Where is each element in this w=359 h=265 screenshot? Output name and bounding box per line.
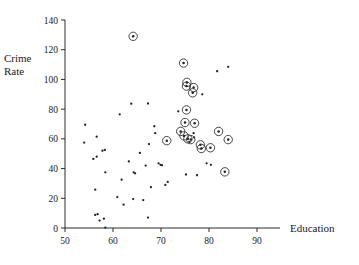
y-tick-label: 100 — [44, 75, 59, 85]
x-tick-label: 60 — [108, 236, 118, 246]
data-point — [134, 172, 136, 174]
data-point — [104, 171, 106, 173]
data-point-highlighted — [185, 109, 188, 112]
data-point — [148, 143, 150, 145]
data-point — [96, 135, 98, 137]
data-point — [104, 226, 106, 228]
data-point-highlighted — [227, 138, 230, 141]
data-point — [96, 156, 98, 158]
x-axis-title: Education — [290, 222, 335, 234]
data-point — [153, 125, 155, 127]
y-ticks-group: 020406080100120140 — [44, 16, 65, 234]
y-tick-label: 60 — [49, 134, 59, 144]
data-point — [154, 132, 156, 134]
data-point — [103, 217, 105, 219]
data-point — [164, 184, 166, 186]
data-point — [161, 164, 163, 166]
data-point — [92, 158, 94, 160]
y-tick-label: 0 — [53, 224, 58, 234]
data-point — [216, 70, 218, 72]
x-tick-label: 80 — [204, 236, 214, 246]
data-points-group — [83, 32, 232, 229]
data-point — [122, 204, 124, 206]
data-point — [142, 199, 144, 201]
data-point — [83, 141, 85, 143]
data-point — [128, 160, 130, 162]
data-point — [130, 103, 132, 105]
data-point — [147, 102, 149, 104]
data-point-highlighted — [166, 139, 169, 142]
data-point-highlighted — [184, 121, 187, 124]
data-point — [132, 198, 134, 200]
data-point — [167, 181, 169, 183]
data-point-highlighted — [185, 85, 188, 88]
data-point — [101, 150, 103, 152]
y-tick-label: 140 — [44, 16, 59, 26]
data-point-highlighted — [193, 122, 196, 125]
data-point — [201, 93, 203, 95]
data-point-highlighted — [200, 147, 203, 150]
data-point — [94, 189, 96, 191]
data-point — [84, 124, 86, 126]
x-tick-label: 70 — [156, 236, 166, 246]
x-ticks-group: 5060708090 — [60, 228, 262, 246]
data-point-highlighted — [132, 35, 135, 38]
x-tick-label: 90 — [252, 236, 262, 246]
data-point — [177, 110, 179, 112]
data-point — [96, 213, 98, 215]
data-point-highlighted — [209, 147, 212, 150]
data-point-highlighted — [217, 130, 220, 133]
data-point — [104, 149, 106, 151]
data-point-highlighted — [191, 92, 194, 95]
data-point-highlighted — [224, 171, 227, 174]
data-point — [196, 174, 198, 176]
data-point — [116, 196, 118, 198]
data-point — [139, 152, 141, 154]
data-point — [94, 214, 96, 216]
data-point — [192, 132, 194, 134]
data-point — [227, 66, 229, 68]
data-point — [205, 162, 207, 164]
scatter-plot-figure: Crime Rate 020406080100120140 5060708090… — [0, 0, 359, 265]
y-tick-label: 120 — [44, 45, 59, 55]
axes-group — [65, 20, 280, 228]
y-tick-label: 20 — [49, 194, 59, 204]
data-point — [157, 162, 159, 164]
data-point — [150, 186, 152, 188]
data-point — [119, 113, 121, 115]
data-point — [144, 164, 146, 166]
y-tick-label: 40 — [49, 164, 59, 174]
data-point — [98, 219, 100, 221]
data-point — [120, 179, 122, 181]
data-point — [210, 164, 212, 166]
plot-canvas: 020406080100120140 5060708090 Education — [0, 0, 359, 265]
y-tick-label: 80 — [49, 105, 59, 115]
x-tick-label: 50 — [60, 236, 70, 246]
data-point — [147, 216, 149, 218]
data-point-highlighted — [190, 138, 193, 141]
data-point-highlighted — [182, 62, 185, 64]
data-point — [185, 173, 187, 175]
